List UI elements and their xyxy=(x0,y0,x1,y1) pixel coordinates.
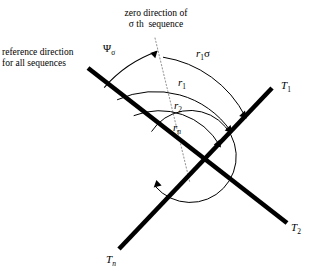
tn-label: Tn xyxy=(106,253,116,269)
arc-r1-subscript: 1 xyxy=(182,82,186,91)
reference-direction-label: reference directionfor all sequences xyxy=(2,47,98,69)
arc-r2-label: r2 xyxy=(174,99,182,115)
arc-r1-label: r1 xyxy=(178,76,186,92)
arc-rn xyxy=(152,110,237,202)
psi-symbol: Ψ xyxy=(103,42,111,54)
diagram-canvas xyxy=(0,0,318,275)
arc-r1sigma-label: r1σ xyxy=(196,47,210,63)
reference-direction-label-line1: reference direction xyxy=(2,47,73,57)
t2-label: T2 xyxy=(291,221,301,237)
arc-rn-label: rn xyxy=(173,121,181,137)
t2-subscript: 2 xyxy=(297,227,301,236)
angle-convention-diagram: zero direction ofσ th sequence reference… xyxy=(0,0,318,275)
t1-subscript: 1 xyxy=(287,85,291,94)
zero-direction-label-line1: zero direction of xyxy=(125,8,188,18)
arc-rn-subscript: n xyxy=(177,127,181,136)
psi-angle-label: Ψσ xyxy=(103,42,115,58)
arc-r2-subscript: 2 xyxy=(178,105,182,114)
t1-label: T1 xyxy=(281,79,291,95)
psi-arrowhead xyxy=(150,51,157,59)
zero-direction-label: zero direction ofσ th sequence xyxy=(101,8,211,30)
psi-subscript: σ xyxy=(111,48,115,57)
reference-direction-label-line2: for all sequences xyxy=(2,58,66,68)
reference-direction-line xyxy=(88,68,287,223)
arc-rn-arrowhead xyxy=(154,180,162,188)
arc-r1sigma-suffix: σ xyxy=(204,47,210,59)
zero-direction-label-line2: σ th sequence xyxy=(129,19,183,29)
tn-subscript: n xyxy=(112,259,116,268)
